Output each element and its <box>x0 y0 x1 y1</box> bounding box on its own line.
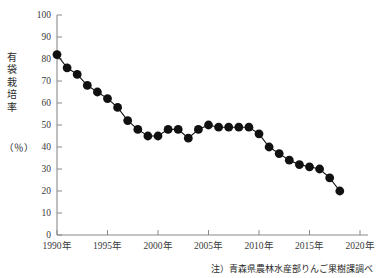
data-point-marker <box>133 125 142 134</box>
data-point-marker <box>154 132 163 141</box>
x-tick-label: 2020年 <box>346 240 375 251</box>
data-point-marker <box>315 165 324 174</box>
y-axis-ticks: 0102030405060708090100 <box>37 10 62 240</box>
data-point-marker <box>63 63 72 72</box>
data-point-marker <box>174 125 183 134</box>
x-tick-label: 1990年 <box>43 240 72 251</box>
y-tick-label: 50 <box>42 120 52 130</box>
source-footnote: 注）青森県農林水産部りんご果樹課調べ <box>211 262 373 275</box>
data-point-marker <box>285 156 294 165</box>
x-tick-label: 1995年 <box>93 240 122 251</box>
y-tick-label: 10 <box>42 208 52 218</box>
data-point-marker <box>164 125 173 134</box>
y-tick-label: 100 <box>37 10 52 20</box>
data-point-marker <box>275 149 284 158</box>
data-point-marker <box>295 160 304 169</box>
data-point-marker <box>204 121 213 130</box>
y-axis-title: 有袋栽培率 <box>4 52 20 114</box>
x-tick-label: 2000年 <box>144 240 173 251</box>
data-point-marker <box>325 173 334 182</box>
series-markers <box>53 50 345 195</box>
y-tick-label: 40 <box>42 142 52 152</box>
data-point-marker <box>305 162 314 171</box>
y-tick-label: 20 <box>42 186 52 196</box>
series-line-yubukuro-rate <box>57 55 340 191</box>
data-point-marker <box>224 123 233 132</box>
chart-container: 有袋栽培率 （％） 0102030405060708090100 1990年19… <box>0 0 379 278</box>
data-point-marker <box>53 50 62 59</box>
y-axis-unit-label: （％） <box>4 140 20 154</box>
y-tick-label: 90 <box>42 32 52 42</box>
x-axis-ticks: 1990年1995年2000年2005年2010年2015年2020年 <box>43 230 375 251</box>
data-point-marker <box>245 123 254 132</box>
data-point-marker <box>194 125 203 134</box>
data-point-marker <box>73 70 82 79</box>
x-tick-label: 2015年 <box>295 240 324 251</box>
data-point-marker <box>113 103 122 112</box>
data-point-marker <box>123 116 132 125</box>
y-tick-label: 30 <box>42 164 52 174</box>
data-point-marker <box>265 143 274 152</box>
data-point-marker <box>255 129 264 138</box>
line-chart-plot: 0102030405060708090100 1990年1995年2000年20… <box>0 0 379 278</box>
data-point-marker <box>83 81 92 90</box>
data-point-marker <box>335 187 344 196</box>
x-tick-label: 2005年 <box>194 240 223 251</box>
y-tick-label: 0 <box>46 230 51 240</box>
x-tick-label: 2010年 <box>245 240 274 251</box>
data-point-marker <box>214 123 223 132</box>
y-tick-label: 70 <box>42 76 52 86</box>
data-point-marker <box>234 123 243 132</box>
y-tick-label: 80 <box>42 54 52 64</box>
data-point-marker <box>93 88 102 97</box>
data-point-marker <box>103 94 112 103</box>
data-point-marker <box>184 134 193 143</box>
data-point-marker <box>144 132 153 141</box>
y-tick-label: 60 <box>42 98 52 108</box>
